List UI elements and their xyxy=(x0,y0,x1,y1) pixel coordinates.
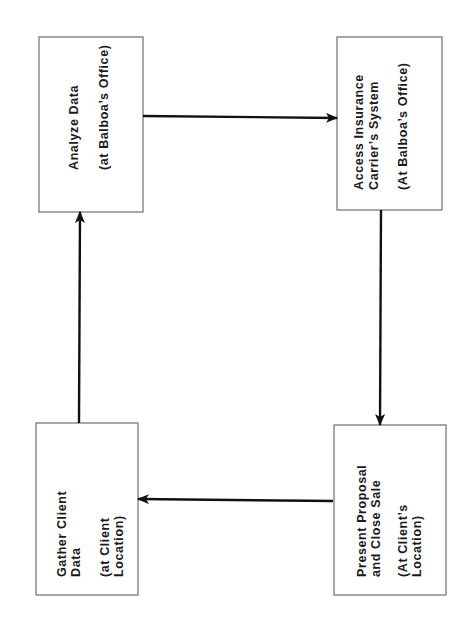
label-line: (at Client xyxy=(98,517,112,577)
process-diagram: Analyze Data (at Balboa’s Office) Access… xyxy=(0,0,473,634)
arrow-access-to-present xyxy=(380,210,381,425)
arrow-analyze-to-access xyxy=(143,116,337,118)
label-line: (At Balboa’s Office) xyxy=(396,62,410,190)
label-line: Analyze Data xyxy=(67,85,81,170)
label-line: (at Balboa’s Office) xyxy=(97,45,111,170)
label-line: Data xyxy=(69,547,83,577)
arrow-present-to-gather xyxy=(138,499,333,501)
label-line: Present Proposal xyxy=(355,465,369,577)
arrow-gather-to-analyze xyxy=(79,212,80,423)
label-line: Location) xyxy=(112,515,126,577)
box-analyze-data xyxy=(39,37,143,212)
label-line: Carrier’s System xyxy=(367,81,381,190)
label-line: Access Insurance xyxy=(352,74,366,190)
label-line: (At Client’s xyxy=(396,504,410,577)
label-line: Gather Client xyxy=(55,490,69,577)
box-present-proposal xyxy=(334,425,446,595)
label-line: and Close Sale xyxy=(369,480,383,577)
label-line: Location) xyxy=(410,515,424,577)
